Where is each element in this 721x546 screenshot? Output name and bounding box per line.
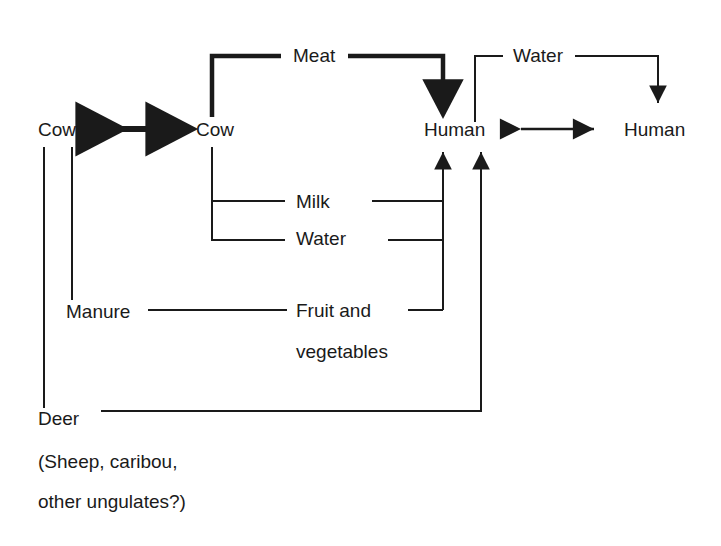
edge-label-milk: Milk — [291, 192, 335, 211]
edge-water-top — [475, 56, 658, 122]
node-deer[interactable]: Deer — [38, 409, 79, 428]
deer-note-line2: other ungulates?) — [38, 492, 186, 511]
edge-label-fruit-line2: vegetables — [291, 342, 393, 361]
edge-label-water-mid: Water — [291, 229, 351, 248]
edge-label-fruit-line1: Fruit and — [291, 301, 376, 320]
edge-deer-human — [101, 152, 481, 411]
edge-label-meat: Meat — [288, 46, 340, 65]
node-manure[interactable]: Manure — [66, 302, 130, 321]
node-human-left[interactable]: Human — [424, 120, 485, 139]
diagram-canvas: Cow Cow Human Human Manure Deer Meat Wat… — [0, 0, 721, 546]
edge-label-water-top: Water — [508, 46, 568, 65]
node-cow-left[interactable]: Cow — [38, 120, 76, 139]
node-human-right[interactable]: Human — [624, 120, 685, 139]
edge-cow-bracket — [212, 147, 285, 240]
deer-note-line1: (Sheep, caribou, — [38, 452, 177, 471]
node-cow-right[interactable]: Cow — [196, 120, 234, 139]
